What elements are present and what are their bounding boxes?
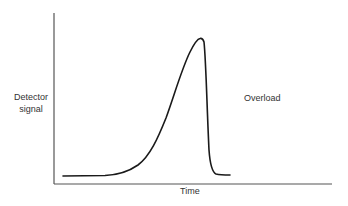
detector-signal-diagram: Detector signal Time Overload [0,0,348,206]
y-axis-label-line-1: Detector [4,91,58,103]
signal-curve [63,38,230,176]
y-axis-label: Detector signal [4,91,58,115]
overload-annotation: Overload [244,93,281,103]
x-axis-label: Time [180,186,200,196]
y-axis-label-line-2: signal [4,103,58,115]
